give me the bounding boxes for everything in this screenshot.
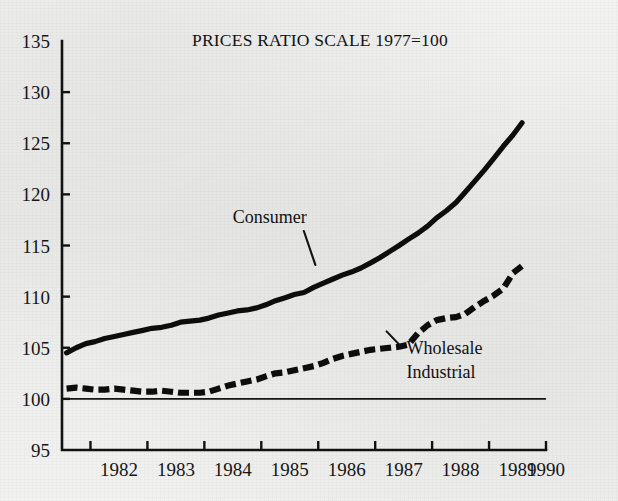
x-tick-label-1982: 1982 — [100, 459, 138, 480]
wholesale-series-label-line2: Industrial — [406, 362, 475, 382]
y-tick-label-105: 105 — [22, 338, 51, 359]
x-axis-tick-marks — [90, 441, 546, 450]
wholesale-leader-line — [387, 331, 401, 345]
y-tick-label-135: 135 — [22, 31, 51, 52]
x-tick-label-1986: 1986 — [328, 459, 366, 480]
annotation-wholesale-industrial: Wholesale Industrial — [387, 331, 483, 381]
wholesale-series-label-line1: Wholesale — [406, 338, 482, 358]
x-tick-label-1983: 1983 — [157, 459, 195, 480]
y-tick-label-125: 125 — [22, 133, 51, 154]
y-tick-label-110: 110 — [22, 287, 50, 308]
consumer-series-label: Consumer — [233, 207, 307, 227]
y-tick-label-115: 115 — [22, 236, 50, 257]
chart-figure: PRICES RATIO SCALE 1977=100 951001051101… — [0, 0, 618, 501]
y-tick-label-120: 120 — [22, 184, 51, 205]
y-axis-tick-labels: 95100105110115120125130135 — [22, 31, 51, 461]
chart-title: PRICES RATIO SCALE 1977=100 — [192, 30, 448, 50]
x-tick-label-1988: 1988 — [442, 459, 480, 480]
annotation-consumer: Consumer — [233, 207, 316, 265]
chart-canvas: PRICES RATIO SCALE 1977=100 951001051101… — [0, 0, 618, 501]
y-tick-label-130: 130 — [22, 82, 51, 103]
y-tick-label-100: 100 — [22, 389, 51, 410]
consumer-leader-line — [304, 231, 316, 265]
y-tick-label-95: 95 — [31, 440, 50, 461]
x-tick-label-1990: 1990 — [527, 459, 565, 480]
x-tick-label-1984: 1984 — [214, 459, 253, 480]
x-tick-label-1985: 1985 — [271, 459, 309, 480]
x-tick-label-1987: 1987 — [385, 459, 423, 480]
x-axis-tick-labels: 198219831984198519861987198819891990 — [100, 459, 565, 480]
